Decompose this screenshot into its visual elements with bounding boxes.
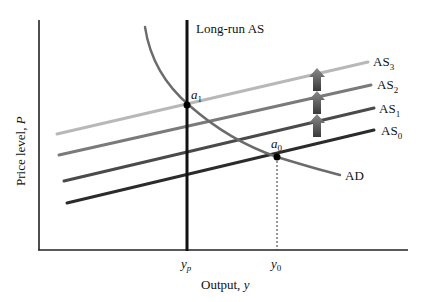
long-run-as-label: Long-run AS (196, 21, 264, 36)
point-a0 (274, 154, 281, 161)
point-a0-label: a0 (271, 136, 283, 153)
x-tick-y0: y0 (269, 256, 282, 273)
ad-curve (145, 27, 340, 175)
ad-label: AD (345, 168, 364, 183)
as0-curve (67, 130, 374, 203)
y-axis-label: Price level, P (13, 116, 28, 186)
x-tick-yp: yp (179, 256, 192, 273)
as0-label: AS0 (381, 123, 403, 141)
ad-as-diagram: Long-run AS AS3 AS2 AS1 AS0 AD a1 a0 yp … (0, 0, 431, 302)
point-a1 (184, 102, 191, 109)
shift-arrow-1 (309, 114, 325, 137)
as3-label: AS3 (373, 54, 395, 72)
as1-label: AS1 (379, 101, 400, 119)
arrow-up-icon (309, 114, 325, 137)
point-a1-label: a1 (191, 87, 202, 104)
x-axis-label: Output, y (201, 277, 250, 292)
as2-label: AS2 (377, 77, 398, 95)
